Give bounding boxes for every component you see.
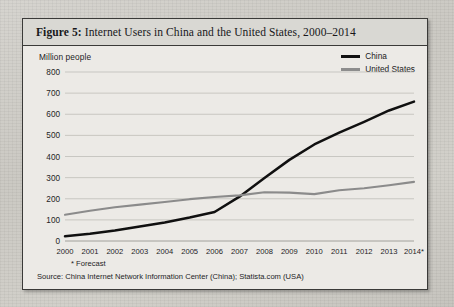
svg-text:2008: 2008 [256, 247, 273, 256]
svg-text:300: 300 [46, 174, 60, 183]
svg-text:200: 200 [46, 195, 60, 204]
svg-text:2012: 2012 [356, 247, 373, 256]
svg-text:2011: 2011 [331, 247, 347, 256]
svg-text:2013: 2013 [381, 247, 398, 256]
svg-text:2005: 2005 [181, 247, 198, 256]
svg-text:500: 500 [46, 131, 60, 140]
forecast-footnote: * Forecast [71, 259, 106, 268]
chart-plot-area: Million people China United States 01002… [23, 46, 427, 289]
figure-container: Figure 5: Internet Users in China and th… [22, 18, 428, 290]
svg-text:400: 400 [46, 153, 60, 162]
svg-text:2001: 2001 [81, 247, 98, 256]
figure-label: Figure 5: [36, 26, 82, 38]
svg-text:0: 0 [55, 237, 60, 246]
svg-text:2002: 2002 [106, 247, 123, 256]
svg-text:2007: 2007 [231, 247, 248, 256]
svg-text:2009: 2009 [281, 247, 298, 256]
svg-text:100: 100 [46, 216, 60, 225]
svg-text:2000: 2000 [57, 247, 74, 256]
source-note: Source: China Internet Network Informati… [37, 272, 304, 281]
svg-text:2003: 2003 [131, 247, 148, 256]
svg-text:2010: 2010 [306, 247, 323, 256]
svg-text:600: 600 [46, 110, 60, 119]
svg-text:2014*: 2014* [404, 247, 424, 256]
svg-text:2004: 2004 [156, 247, 173, 256]
series-line-china [65, 102, 414, 237]
figure-caption-text: Internet Users in China and the United S… [85, 26, 356, 38]
svg-text:800: 800 [46, 68, 60, 77]
svg-text:700: 700 [46, 89, 60, 98]
series-line-united-states [65, 182, 414, 215]
chart-svg: 0100200300400500600700800200020012002200… [23, 46, 426, 289]
figure-caption: Figure 5: Internet Users in China and th… [23, 19, 427, 46]
svg-text:2006: 2006 [206, 247, 223, 256]
